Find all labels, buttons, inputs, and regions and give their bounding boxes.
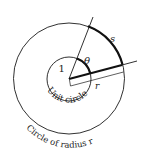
label-s: s xyxy=(110,33,115,44)
arc-length-diagram: 1 θ s r Unit circle Circle of radius r xyxy=(0,0,142,150)
label-theta: θ xyxy=(84,55,90,66)
s-arc xyxy=(88,26,123,64)
lower-ray-extension xyxy=(122,61,137,65)
label-one: 1 xyxy=(59,63,65,74)
r-dim-tick xyxy=(70,80,71,86)
label-unit-circle: Unit circle xyxy=(45,85,89,105)
label-outer-circle: Circle of radius r xyxy=(24,123,95,150)
label-r: r xyxy=(95,81,100,91)
lower-ray-thick xyxy=(69,65,122,79)
